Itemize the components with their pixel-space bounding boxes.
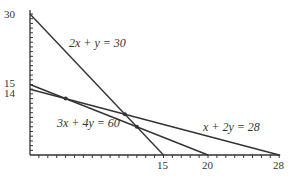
intersection-point-2: [135, 125, 139, 129]
equation-labels: 2x + y = 30 3x + 4y = 60 x + 2y = 28: [56, 36, 260, 134]
equation-label-x-2y-28: x + 2y = 28: [202, 120, 260, 134]
x-tick-label-15: 15: [157, 159, 169, 171]
intersection-point-0: [64, 97, 68, 101]
x-axis-tick-labels: 15 20 28: [157, 159, 285, 171]
axis-ticks: [30, 14, 279, 158]
linear-constraints-chart: 30 15 14 15 20 28 2x + y = 30 3x + 4y = …: [0, 0, 301, 180]
y-tick-label-14: 14: [4, 87, 16, 99]
equation-label-3x-4y-60: 3x + 4y = 60: [56, 116, 120, 130]
y-tick-label-30: 30: [4, 8, 16, 20]
y-axis-tick-labels: 30 15 14: [4, 8, 16, 99]
x-tick-label-20: 20: [202, 159, 214, 171]
equation-label-2x-y-30: 2x + y = 30: [69, 36, 126, 50]
x-tick-label-28: 28: [273, 159, 285, 171]
intersection-point-1: [123, 112, 127, 116]
